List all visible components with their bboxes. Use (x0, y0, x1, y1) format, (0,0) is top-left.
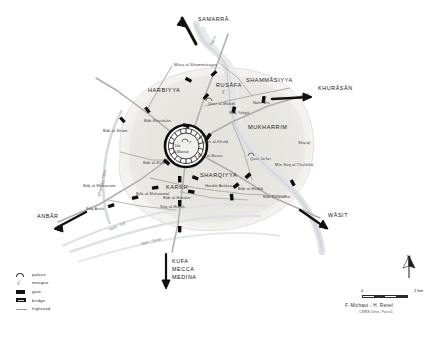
credit-affiliation: CNRS Univ. Paris1 (314, 310, 424, 314)
historical-map-baghdad: ☾ (0, 0, 436, 338)
compass-rose: N (398, 253, 420, 260)
credit-authors: F. Michaut - H. Renel (314, 303, 424, 308)
map-credit: F. Michaut - H. Renel CNRS Univ. Paris1 (314, 303, 424, 314)
legend-item-gate: gate (14, 287, 92, 296)
legend-label-palace: palace (29, 272, 46, 277)
svg-text:☾: ☾ (222, 89, 226, 95)
scale-bar (362, 295, 408, 298)
legend-label-gate: gate (29, 289, 41, 294)
legend-label-bridge: bridge (29, 298, 45, 303)
svg-text:☾: ☾ (189, 140, 193, 145)
legend-item-bridge: bridge (14, 296, 92, 305)
scale-bar-group: 0 2 km (362, 288, 414, 298)
legend-item-mosque: ☾ mosque (14, 279, 92, 288)
legend-label-mosque: mosque (29, 280, 49, 285)
legend-item-palace: palace (14, 270, 92, 279)
bridge-icon (14, 296, 29, 305)
legend-item-highroad: highroad (14, 304, 92, 313)
map-legend: palace ☾ mosque gate bridge highroad (14, 270, 92, 313)
highroad-icon (14, 304, 29, 313)
urban-area (119, 68, 313, 231)
gate-icon (14, 287, 29, 296)
legend-label-highroad: highroad (29, 306, 50, 311)
mosque-icon: ☾ (14, 279, 29, 288)
palace-icon (14, 270, 29, 279)
scale-end-label: 2 km (414, 288, 423, 293)
scale-labels: 0 2 km (362, 288, 414, 294)
round-city-al-mansur: ☾ (165, 125, 207, 167)
compass-north-label: N (398, 254, 420, 260)
scale-start-label: 0 (361, 288, 363, 293)
